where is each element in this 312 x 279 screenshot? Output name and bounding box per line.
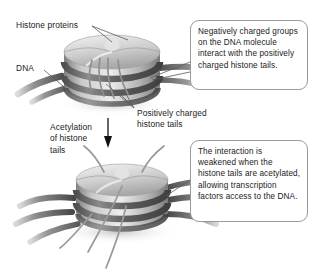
callout-acetylation-effect: The interaction is weakened when the his… (190, 140, 308, 222)
bottom-nucleosome (16, 146, 218, 268)
label-positively-charged-histone-tails: Positively charged histone tails (137, 108, 207, 131)
label-acetylation-of-histone-tails: Acetylation of histone tails (50, 122, 92, 156)
acetylation-arrow (104, 118, 112, 148)
top-nucleosome (18, 35, 210, 115)
label-dna: DNA (16, 63, 34, 74)
callout-negative-charge: Negatively charged groups on the DNA mol… (190, 20, 308, 90)
label-histone-proteins: Histone proteins (16, 20, 78, 31)
histone-acetylation-figure: Histone proteins DNA Positively charged … (0, 0, 312, 279)
